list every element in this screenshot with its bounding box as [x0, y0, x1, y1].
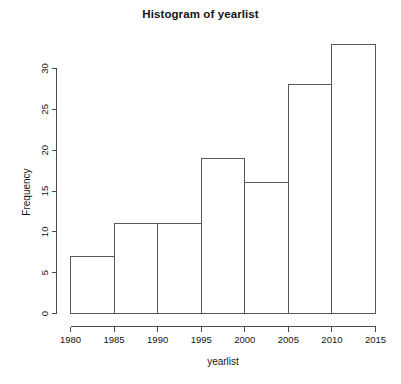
- histogram-bar: [158, 224, 202, 314]
- histogram-bar: [288, 85, 332, 314]
- histogram-plot: Histogram of yearlist 051015202530 19801…: [0, 0, 401, 384]
- histogram-bar: [332, 44, 376, 314]
- x-axis-tick-label: 2000: [234, 334, 255, 345]
- x-axis-tick-label: 1985: [104, 334, 125, 345]
- x-axis-tick-label: 2010: [321, 334, 342, 345]
- y-axis-tick-label: 15: [39, 186, 50, 197]
- x-axis-tick-label: 2005: [278, 334, 299, 345]
- y-axis-tick-label: 30: [39, 63, 50, 74]
- plot-canvas: 051015202530 198019851990199520002005201…: [0, 0, 401, 384]
- y-axis-tick-label: 10: [39, 227, 50, 238]
- x-axis-title: yearlist: [207, 356, 239, 367]
- x-axis-tick-label: 1990: [147, 334, 168, 345]
- y-axis-tick-label: 20: [39, 145, 50, 156]
- y-axis-tick-label: 5: [39, 270, 50, 275]
- bars-group: [71, 44, 376, 314]
- x-axis: 19801985199019952000200520102015: [60, 327, 386, 345]
- x-axis-tick-label: 1980: [60, 334, 81, 345]
- y-axis-tick-label: 25: [39, 104, 50, 115]
- x-axis-tick-label: 2015: [365, 334, 386, 345]
- y-axis-title: Frequency: [21, 168, 32, 215]
- y-axis: 051015202530: [39, 63, 57, 316]
- x-axis-tick-label: 1995: [191, 334, 212, 345]
- histogram-bar: [71, 256, 115, 313]
- y-axis-tick-label: 0: [39, 311, 50, 316]
- histogram-bar: [201, 158, 245, 313]
- histogram-bar: [114, 224, 158, 314]
- histogram-bar: [245, 183, 289, 314]
